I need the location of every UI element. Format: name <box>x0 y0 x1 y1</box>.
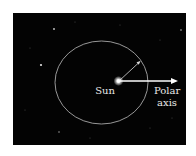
starfield <box>25 22 182 139</box>
polar-axis-label-line1: Polar <box>154 85 180 96</box>
polar-axis-label-line2: axis <box>154 97 180 108</box>
orbit-diagram <box>0 0 196 156</box>
sun-label: Sun <box>94 85 116 96</box>
elliptical-orbit <box>55 41 148 124</box>
polar-axis-arrow <box>119 78 178 84</box>
